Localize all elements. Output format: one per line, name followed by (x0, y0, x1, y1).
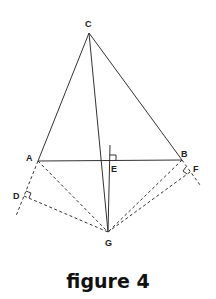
segment-AG (38, 161, 108, 232)
label-E: E (111, 164, 117, 174)
label-D: D (13, 191, 20, 201)
segment-DG (24, 196, 108, 232)
figure-caption: figure 4 (0, 270, 216, 292)
segment-CA (38, 33, 89, 161)
label-F: F (193, 164, 199, 174)
label-A: A (26, 153, 33, 163)
right-angle-F (183, 167, 187, 174)
segment-EG (108, 145, 110, 232)
segment-CG (89, 33, 108, 232)
geometry-diagram: C A B E G D F (0, 0, 216, 299)
label-G: G (105, 238, 112, 248)
label-C: C (85, 19, 92, 29)
segment-CB (89, 33, 182, 160)
extension-CA (16, 161, 38, 216)
segment-BG (108, 160, 182, 232)
segment-FG (108, 172, 190, 232)
label-B: B (181, 149, 188, 159)
